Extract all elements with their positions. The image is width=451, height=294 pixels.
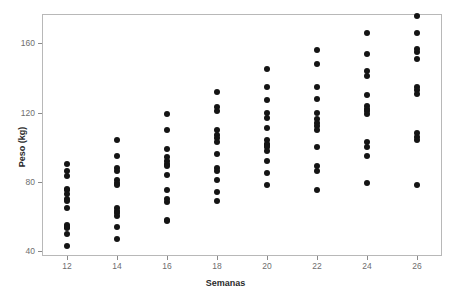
data-point <box>164 127 170 133</box>
data-point <box>414 137 420 143</box>
data-point <box>264 170 270 176</box>
y-axis-title: Peso (kg) <box>17 127 27 168</box>
x-tick-label: 16 <box>162 262 171 271</box>
data-point <box>264 182 270 188</box>
data-point <box>214 168 220 174</box>
data-point <box>264 158 270 164</box>
scatter-plot-figure: Peso (kg) 4080120160 1214161820222426 Se… <box>0 0 451 294</box>
data-point <box>64 161 70 167</box>
data-point <box>314 96 320 102</box>
x-tick-mark <box>317 256 318 260</box>
x-tick-mark <box>417 256 418 260</box>
data-point <box>214 108 220 114</box>
data-point <box>214 198 220 204</box>
y-tick-label: 120 <box>21 108 35 117</box>
x-tick-mark <box>367 256 368 260</box>
data-point <box>314 110 320 116</box>
data-point <box>364 111 370 117</box>
data-point <box>364 153 370 159</box>
data-point <box>214 189 220 195</box>
x-tick-label: 18 <box>212 262 221 271</box>
plot-area <box>43 15 441 255</box>
data-point <box>214 177 220 183</box>
x-tick-mark <box>117 256 118 260</box>
data-point <box>264 125 270 131</box>
data-point <box>314 187 320 193</box>
data-point <box>264 66 270 72</box>
y-tick-label: 80 <box>26 177 35 186</box>
data-point <box>364 51 370 57</box>
x-tick-label: 14 <box>112 262 121 271</box>
data-point <box>314 47 320 53</box>
x-tick-mark <box>217 256 218 260</box>
x-axis-title: Semanas <box>0 278 451 288</box>
data-point <box>214 89 220 95</box>
data-point <box>214 139 220 145</box>
y-tick-label: 40 <box>26 247 35 256</box>
data-point <box>414 182 420 188</box>
data-point <box>64 173 70 179</box>
x-tick-label: 24 <box>362 262 371 271</box>
data-point <box>414 49 420 55</box>
x-tick-mark <box>267 256 268 260</box>
data-point <box>264 97 270 103</box>
data-point <box>114 182 120 188</box>
data-point <box>314 84 320 90</box>
data-point <box>114 224 120 230</box>
data-point <box>114 168 120 174</box>
data-point <box>214 151 220 157</box>
data-point <box>264 148 270 154</box>
data-point <box>114 236 120 242</box>
data-point <box>164 187 170 193</box>
data-point <box>314 144 320 150</box>
data-point <box>114 153 120 159</box>
x-tick-mark <box>167 256 168 260</box>
data-point <box>164 172 170 178</box>
data-point <box>414 30 420 36</box>
data-point <box>364 92 370 98</box>
data-point <box>364 73 370 79</box>
data-point <box>264 115 270 121</box>
data-point <box>414 91 420 97</box>
data-point <box>414 56 420 62</box>
data-point <box>114 213 120 219</box>
data-point <box>164 111 170 117</box>
data-point <box>364 30 370 36</box>
data-point <box>164 146 170 152</box>
data-point <box>64 243 70 249</box>
data-point <box>114 137 120 143</box>
data-point <box>164 218 170 224</box>
x-tick-mark <box>67 256 68 260</box>
data-point <box>314 168 320 174</box>
data-point <box>414 13 420 19</box>
data-point <box>64 205 70 211</box>
data-point <box>164 199 170 205</box>
data-point <box>364 180 370 186</box>
x-tick-label: 22 <box>312 262 321 271</box>
y-tick-label: 160 <box>21 39 35 48</box>
x-tick-label: 26 <box>412 262 421 271</box>
x-tick-label: 20 <box>262 262 271 271</box>
data-point <box>364 144 370 150</box>
data-point <box>264 84 270 90</box>
data-point <box>64 231 70 237</box>
data-point <box>314 61 320 67</box>
plot-panel <box>42 14 442 256</box>
data-point <box>314 127 320 133</box>
data-point <box>64 198 70 204</box>
x-tick-label: 12 <box>62 262 71 271</box>
data-point <box>164 163 170 169</box>
